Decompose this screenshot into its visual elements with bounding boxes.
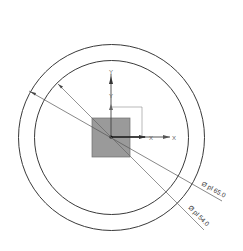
x-axis-label: X <box>172 135 176 141</box>
x-axis-arrow-icon <box>139 135 146 139</box>
x-axis-secondary-arrow-icon <box>163 135 170 139</box>
y-axis-arrow-icon <box>109 76 113 84</box>
drawing-canvas: Y Y X X Ø pl 65.0 Ø pl 54.0 <box>0 0 243 251</box>
outer-leader-arrow-icon <box>30 92 36 96</box>
outer-diameter-leader[interactable] <box>29 91 222 201</box>
outer-diameter-label[interactable]: Ø pl 65.0 <box>200 180 227 200</box>
x-axis-secondary-label: X <box>149 135 153 141</box>
y-axis-secondary-label: Y <box>109 93 113 99</box>
y-axis-label: Y <box>109 69 113 75</box>
